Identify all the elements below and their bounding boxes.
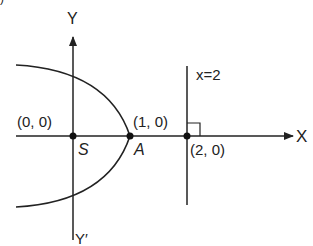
point-s-label: S [78, 142, 89, 158]
directrix-label: x=2 [196, 67, 221, 82]
point-a-label: A [134, 142, 145, 158]
x-axis-label: X [296, 128, 307, 145]
directrix-foot-coord: (2, 0) [190, 142, 225, 157]
parabola-diagram: ) Y Y′ X x=2 (0, 0) S (1, 0) A (2, 0) [0, 0, 313, 246]
point-directrix-foot [184, 133, 191, 140]
point-a [127, 133, 134, 140]
y-neg-axis-label: Y′ [75, 231, 88, 246]
corner-fragment: ) [0, 0, 4, 4]
point-s [70, 133, 77, 140]
point-s-coord: (0, 0) [17, 114, 52, 129]
point-a-coord: (1, 0) [133, 114, 168, 129]
y-axis-label: Y [67, 11, 78, 27]
